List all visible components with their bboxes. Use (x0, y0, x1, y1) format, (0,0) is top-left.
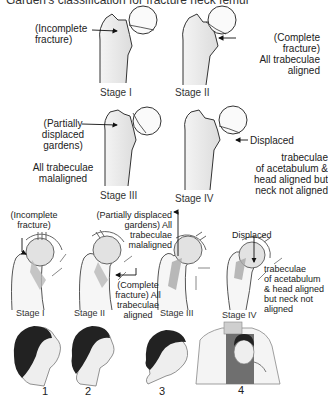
femur-stage-1 (92, 6, 157, 83)
annotation-complete-fracture-2: (Complete fracture) All trabeculae align… (220, 32, 320, 76)
annotation-partially-displaced-3: (Partially displaced gardens) (28, 118, 98, 151)
head-label-3: 3 (159, 385, 165, 397)
mid-stage-label-2: Stage II (74, 308, 105, 318)
mid-stage-label-1: Stage I (16, 308, 45, 318)
mid-annotation-incomplete-fracture: (Incomplete fracture) (6, 210, 62, 230)
head-illustration-2 (72, 326, 115, 386)
hip-joint-stage-1 (12, 232, 67, 310)
head-label-2: 2 (85, 385, 91, 397)
head-label-1: 1 (42, 385, 48, 397)
note-trabeculae-4: trabeculae of acetabulum & head aligned … (215, 152, 328, 196)
stage-label-3: Stage III (100, 190, 137, 201)
stage-label-2: Stage II (175, 87, 209, 98)
mid-annotation-partially-displaced: (Partially displaced gardens) All trabec… (84, 210, 172, 250)
annotation-displaced-4: Displaced (250, 135, 294, 146)
head-label-4: 4 (238, 384, 244, 396)
head-illustration-3 (146, 330, 188, 384)
head-illustration-4 (196, 322, 280, 384)
mid-stage-label-3: Stage III (160, 308, 194, 318)
stage-label-1: Stage I (100, 87, 132, 98)
stage-label-4: Stage IV (175, 193, 213, 204)
note-malaligned-3: All trabeculae malaligned (28, 162, 98, 184)
mid-note-trabeculae: trabeculae of acetabulum & head aligned … (264, 264, 324, 314)
annotation-incomplete-fracture-1: (Incomplete fracture) (35, 23, 87, 45)
mid-annotation-displaced: Displaced (232, 230, 272, 240)
head-illustration-1 (14, 326, 61, 386)
mid-annotation-complete-fracture: (Complete fracture) All trabeculae align… (108, 280, 168, 320)
mid-stage-label-4: Stage IV (222, 310, 257, 320)
